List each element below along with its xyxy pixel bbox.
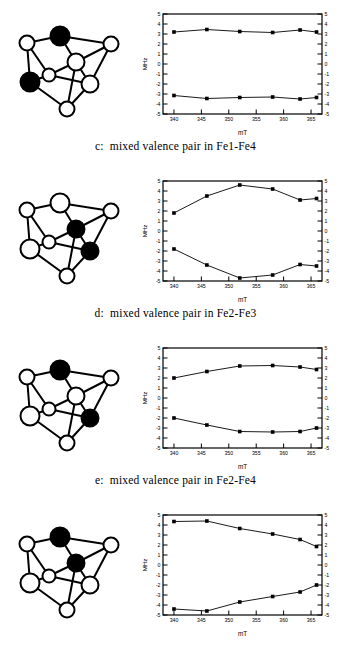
cluster-atom-open [21, 240, 40, 259]
data-point-marker [172, 30, 176, 34]
x-axis-tick-label: 350 [224, 116, 233, 122]
y-axis-tick-label-right: 4 [325, 522, 328, 528]
data-point-marker [205, 97, 209, 101]
data-point-marker [238, 600, 242, 604]
y-axis-tick-label-left: -4 [156, 435, 161, 441]
data-point-marker [205, 423, 209, 427]
y-axis-tick-label-right: 1 [325, 51, 328, 57]
y-axis-tick-label-right: 3 [325, 365, 328, 371]
y-axis-tick-label-right: -3 [325, 258, 330, 264]
y-axis-tick-label-left: 1 [158, 552, 161, 558]
data-point-marker [205, 28, 209, 32]
cluster-atom-filled [21, 73, 40, 92]
plot-frame [163, 515, 322, 615]
cluster-atom-open [68, 388, 85, 405]
x-axis-tick-label: 340 [170, 116, 179, 122]
y-axis-tick-label-right: -2 [325, 248, 330, 254]
cluster-atom-open [20, 36, 35, 51]
y-axis-title: MHz [141, 58, 148, 71]
y-axis-tick-label-right: -4 [325, 268, 330, 274]
y-axis-tick-label-right: 5 [325, 512, 328, 518]
data-point-marker [315, 583, 319, 587]
data-series-line [174, 96, 317, 100]
data-series-line [174, 185, 317, 213]
y-axis-tick-label-left: 2 [158, 542, 161, 548]
y-axis-tick-label-right: 2 [325, 208, 328, 214]
cluster-atom-filled [51, 528, 70, 547]
y-axis-tick-label-left: -2 [156, 582, 161, 588]
data-point-marker [315, 96, 319, 100]
cluster-atom-filled [68, 221, 85, 238]
x-axis-tick-label: 360 [279, 450, 288, 456]
x-axis-tick-label: 365 [307, 617, 316, 623]
cluster-diagram-svg [14, 181, 134, 291]
y-axis-tick-label-left: 1 [158, 385, 161, 391]
data-point-marker [271, 364, 275, 368]
panel-caption-d: d: mixed valence pair in Fe2-Fe3 [0, 307, 351, 319]
y-axis-tick-label-right: -1 [325, 405, 330, 411]
data-point-marker [298, 28, 302, 32]
x-axis-tick-label: 345 [197, 617, 206, 623]
x-axis-tick-label: 365 [307, 450, 316, 456]
y-axis-tick-label-left: 4 [158, 522, 161, 528]
x-axis-tick-label: 365 [307, 116, 316, 122]
x-axis-title: mT [238, 630, 247, 637]
y-axis-tick-label-right: 3 [325, 31, 328, 37]
y-axis-tick-label-left: 0 [158, 61, 161, 67]
x-axis-tick-label: 340 [170, 617, 179, 623]
data-point-marker [205, 370, 209, 374]
y-axis-title: MHz [141, 392, 148, 405]
data-point-marker [315, 426, 319, 430]
data-series-line [174, 585, 317, 611]
cluster-atom-filled [51, 361, 70, 380]
y-axis-tick-label-left: 2 [158, 208, 161, 214]
data-point-marker [172, 607, 176, 611]
cluster-atom-open [104, 538, 119, 553]
cluster-atom-open [60, 436, 75, 451]
y-axis-tick-label-left: -5 [156, 278, 161, 284]
y-axis-tick-label-left: 0 [158, 562, 161, 568]
cluster-atom-open [82, 577, 99, 594]
data-point-marker [205, 194, 209, 198]
cluster-atom-open [20, 537, 35, 552]
y-axis-tick-label-right: -5 [325, 111, 330, 117]
y-axis-tick-label-left: 1 [158, 218, 161, 224]
data-point-marker [271, 595, 275, 599]
y-axis-tick-label-right: -1 [325, 238, 330, 244]
cluster-atom-open [43, 403, 56, 416]
y-axis-tick-label-right: -5 [325, 612, 330, 618]
figure-panel-f: 554433221100-1-1-2-2-3-3-4-4-5-534034535… [0, 501, 351, 669]
data-point-marker [298, 365, 302, 369]
cluster-diagram-f [14, 515, 134, 625]
plot-frame [163, 181, 322, 281]
figure-panel-e: 554433221100-1-1-2-2-3-3-4-4-5-534034535… [0, 334, 351, 501]
cluster-diagram-svg [14, 348, 134, 458]
chart-f: 554433221100-1-1-2-2-3-3-4-4-5-534034535… [139, 509, 344, 641]
y-axis-tick-label-left: 5 [158, 512, 161, 518]
data-point-marker [271, 31, 275, 35]
data-point-marker [315, 197, 319, 201]
y-axis-tick-label-left: -3 [156, 91, 161, 97]
x-axis-title: mT [238, 463, 247, 470]
x-axis-tick-label: 355 [252, 116, 261, 122]
data-point-marker [172, 94, 176, 98]
y-axis-tick-label-right: -1 [325, 71, 330, 77]
y-axis-tick-label-right: -3 [325, 91, 330, 97]
y-axis-tick-label-right: 4 [325, 188, 328, 194]
cluster-atom-open [21, 574, 40, 593]
endor-chart-svg: 554433221100-1-1-2-2-3-3-4-4-5-534034535… [139, 175, 344, 307]
plot-frame [163, 348, 322, 448]
y-axis-tick-label-right: 3 [325, 198, 328, 204]
data-point-marker [298, 590, 302, 594]
data-point-marker [315, 368, 319, 372]
cluster-atom-open [104, 204, 119, 219]
y-axis-tick-label-left: -5 [156, 445, 161, 451]
y-axis-tick-label-left: 0 [158, 395, 161, 401]
y-axis-tick-label-right: 2 [325, 375, 328, 381]
y-axis-tick-label-right: -1 [325, 572, 330, 578]
data-point-marker [238, 183, 242, 187]
y-axis-tick-label-right: 5 [325, 178, 328, 184]
y-axis-tick-label-right: -3 [325, 592, 330, 598]
cluster-atom-open [60, 102, 75, 117]
data-point-marker [238, 96, 242, 100]
